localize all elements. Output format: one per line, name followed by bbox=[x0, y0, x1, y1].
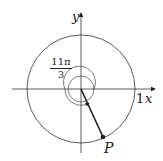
angle-numerator: 11π bbox=[50, 57, 72, 69]
point-p-dot bbox=[101, 135, 106, 140]
y-axis-label: y bbox=[72, 10, 79, 23]
x-axis-label: x bbox=[145, 92, 152, 105]
unit-tick-label: 1 bbox=[136, 92, 144, 105]
angle-denominator: 3 bbox=[50, 69, 72, 80]
angle-label: 11π 3 bbox=[50, 57, 72, 80]
diagram-canvas bbox=[0, 0, 163, 161]
point-p-label: P bbox=[104, 141, 113, 155]
unit-circle-diagram: y 1 x 11π 3 P bbox=[0, 0, 163, 161]
